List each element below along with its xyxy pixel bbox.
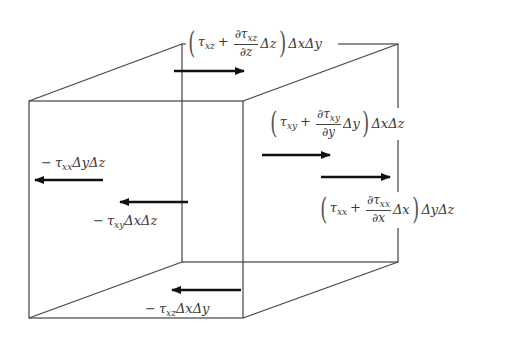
- edge-top-left: [29, 44, 182, 101]
- label-top-xz: (τxz+∂τxz∂zΔz)ΔxΔy: [186, 28, 322, 58]
- label-bottom-xz: −τxzΔxΔy: [142, 302, 209, 318]
- back-face: [182, 44, 398, 262]
- label-right-xy: (τxy+∂τxy∂yΔy)ΔxΔz: [268, 108, 404, 138]
- label-right-xx: (τxx+∂τxx∂xΔx)ΔyΔz: [318, 194, 454, 224]
- edge-bottom-right: [243, 262, 398, 318]
- front-face: [29, 101, 243, 318]
- label-back-xy: −τxyΔxΔz: [90, 214, 157, 230]
- label-left-xx: −τxxΔyΔz: [38, 156, 105, 172]
